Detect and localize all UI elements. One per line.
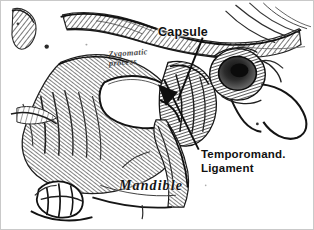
label-capsule: Capsule bbox=[158, 25, 208, 40]
engraving-plate bbox=[1, 1, 313, 229]
anatomical-figure: Capsule Temporomand. Ligament Mandible Z… bbox=[0, 0, 314, 230]
label-zygomatic-process: Zygomatic process bbox=[108, 47, 149, 68]
label-temporomandibular-ligament-line1: Temporomand. bbox=[201, 148, 286, 162]
label-temporomandibular-ligament: Temporomand. Ligament bbox=[201, 148, 286, 175]
label-temporomandibular-ligament-line2: Ligament bbox=[201, 162, 286, 176]
label-mandible: Mandible bbox=[119, 179, 183, 194]
